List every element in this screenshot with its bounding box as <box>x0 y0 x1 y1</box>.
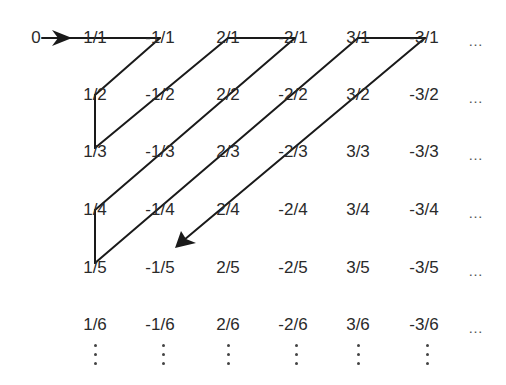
cell-neg1-6: -1/6 <box>145 315 174 335</box>
cell-neg2-4: -2/4 <box>278 200 307 220</box>
cell-neg3-2: -3/2 <box>409 85 438 105</box>
row-ellipsis: … <box>468 204 484 221</box>
cell-neg1-2: -1/2 <box>145 85 174 105</box>
rational-enumeration-diagram: 0 1/1 -1/1 2/1 -2/1 3/1 -3/1 … 1/2 -1/2 … <box>0 0 506 385</box>
cell-2-4: 2/4 <box>216 200 240 220</box>
cell-neg3-4: -3/4 <box>409 200 438 220</box>
column-ellipsis <box>425 344 429 366</box>
column-ellipsis <box>93 344 97 366</box>
row-ellipsis: … <box>468 262 484 279</box>
cell-neg2-1: -2/1 <box>278 28 307 48</box>
cell-2-1: 2/1 <box>216 28 240 48</box>
cell-1-1: 1/1 <box>83 28 107 48</box>
cell-2-2: 2/2 <box>216 85 240 105</box>
column-ellipsis <box>294 344 298 366</box>
cell-3-3: 3/3 <box>346 142 370 162</box>
cell-3-1: 3/1 <box>346 28 370 48</box>
cell-3-4: 3/4 <box>346 200 370 220</box>
cell-1-2: 1/2 <box>83 85 107 105</box>
cell-1-4: 1/4 <box>83 200 107 220</box>
column-ellipsis <box>161 344 165 366</box>
cell-3-5: 3/5 <box>346 258 370 278</box>
column-ellipsis <box>226 344 230 366</box>
cell-2-6: 2/6 <box>216 315 240 335</box>
cell-neg1-3: -1/3 <box>145 142 174 162</box>
cell-neg3-6: -3/6 <box>409 315 438 335</box>
cell-neg1-1: -1/1 <box>145 28 174 48</box>
row-ellipsis: … <box>468 146 484 163</box>
cell-neg2-5: -2/5 <box>278 258 307 278</box>
cell-neg3-1: -3/1 <box>409 28 438 48</box>
cell-neg3-5: -3/5 <box>409 258 438 278</box>
cell-neg2-2: -2/2 <box>278 85 307 105</box>
row-ellipsis: … <box>468 89 484 106</box>
cell-neg1-4: -1/4 <box>145 200 174 220</box>
column-ellipsis <box>356 344 360 366</box>
cell-neg2-6: -2/6 <box>278 315 307 335</box>
row-ellipsis: … <box>468 32 484 49</box>
cell-neg2-3: -2/3 <box>278 142 307 162</box>
start-label: 0 <box>31 28 40 48</box>
cell-3-2: 3/2 <box>346 85 370 105</box>
cell-1-6: 1/6 <box>83 315 107 335</box>
cell-neg3-3: -3/3 <box>409 142 438 162</box>
cell-2-5: 2/5 <box>216 258 240 278</box>
row-ellipsis: … <box>468 319 484 336</box>
cell-neg1-5: -1/5 <box>145 258 174 278</box>
cell-2-3: 2/3 <box>216 142 240 162</box>
cell-1-3: 1/3 <box>83 142 107 162</box>
cell-1-5: 1/5 <box>83 258 107 278</box>
cell-3-6: 3/6 <box>346 315 370 335</box>
